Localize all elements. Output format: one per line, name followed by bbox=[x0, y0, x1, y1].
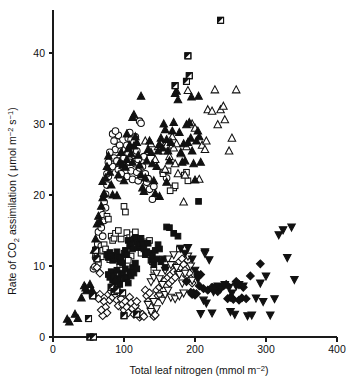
plot-svg: 0100200300400010203040Total leaf nitroge… bbox=[0, 0, 358, 382]
x-axis-title: Total leaf nitrogen (mmol m−2) bbox=[130, 364, 269, 376]
data-point bbox=[137, 92, 145, 99]
data-point bbox=[90, 334, 96, 340]
data-point bbox=[121, 204, 127, 210]
data-point bbox=[130, 246, 136, 252]
y-ticks-group: 010203040 bbox=[33, 47, 53, 343]
x-tick-label: 200 bbox=[186, 343, 204, 355]
y-axis-title: Rate of CO2 assimilation ( μmol m−2 s−1) bbox=[6, 107, 22, 295]
x-tick-label: 100 bbox=[115, 343, 133, 355]
data-point bbox=[180, 198, 188, 205]
data-point bbox=[170, 118, 178, 125]
data-point bbox=[284, 255, 292, 262]
data-point bbox=[120, 290, 126, 296]
data-point bbox=[221, 116, 229, 123]
data-point bbox=[151, 262, 157, 268]
scatter-plot-figure: 0100200300400010203040Total leaf nitroge… bbox=[0, 0, 358, 382]
data-point bbox=[174, 170, 182, 177]
data-point bbox=[106, 216, 112, 222]
data-point bbox=[157, 134, 165, 141]
data-point bbox=[169, 127, 177, 134]
data-point bbox=[125, 280, 131, 286]
data-point bbox=[271, 296, 279, 303]
data-point bbox=[211, 86, 219, 93]
data-point bbox=[225, 147, 233, 154]
data-point bbox=[218, 17, 224, 23]
data-point bbox=[197, 158, 205, 165]
data-point bbox=[121, 313, 127, 319]
data-point bbox=[145, 240, 151, 246]
x-tick-label: 0 bbox=[50, 343, 56, 355]
data-point bbox=[252, 295, 260, 302]
data-point bbox=[186, 73, 192, 79]
data-point bbox=[196, 199, 202, 205]
x-tick-label: 300 bbox=[257, 343, 275, 355]
data-point bbox=[112, 128, 119, 135]
y-tick-label: 30 bbox=[33, 118, 45, 130]
data-point bbox=[214, 121, 222, 128]
data-point bbox=[288, 224, 296, 231]
data-point bbox=[92, 235, 100, 242]
data-point bbox=[257, 280, 265, 287]
x-tick-label: 400 bbox=[328, 343, 346, 355]
data-point bbox=[130, 111, 138, 118]
data-point bbox=[167, 225, 173, 231]
data-point bbox=[116, 228, 122, 234]
data-point bbox=[197, 311, 205, 318]
data-point bbox=[183, 78, 189, 84]
data-point bbox=[90, 293, 96, 299]
data-point bbox=[123, 209, 129, 215]
data-point bbox=[134, 311, 140, 317]
data-point bbox=[158, 259, 164, 265]
data-point bbox=[114, 287, 120, 293]
data-point bbox=[275, 232, 283, 239]
data-point bbox=[185, 53, 191, 59]
data-point bbox=[78, 294, 86, 301]
y-tick-label: 20 bbox=[33, 189, 45, 201]
data-point bbox=[157, 246, 163, 252]
data-point bbox=[133, 260, 139, 266]
data-point bbox=[167, 188, 173, 194]
data-point bbox=[256, 260, 264, 268]
data-point bbox=[120, 260, 126, 266]
data-point bbox=[134, 266, 140, 272]
data-point bbox=[93, 247, 99, 253]
data-point bbox=[86, 316, 92, 322]
data-point bbox=[208, 310, 216, 317]
data-point bbox=[232, 86, 240, 93]
data-point bbox=[259, 299, 267, 306]
data-point bbox=[176, 128, 184, 135]
data-point bbox=[262, 273, 270, 280]
y-tick-label: 0 bbox=[39, 331, 45, 343]
y-tick-label: 40 bbox=[33, 47, 45, 59]
data-point bbox=[246, 272, 254, 280]
axes-group bbox=[53, 10, 337, 337]
y-tick-label: 10 bbox=[33, 260, 45, 272]
data-point bbox=[133, 229, 139, 235]
data-point bbox=[228, 134, 236, 141]
data-point bbox=[175, 233, 181, 239]
data-point bbox=[111, 138, 118, 145]
data-point bbox=[266, 312, 274, 319]
data-point bbox=[138, 120, 145, 127]
series-filled-triangle-down bbox=[177, 224, 298, 320]
data-point bbox=[124, 252, 130, 258]
data-point bbox=[184, 87, 192, 94]
data-point bbox=[160, 120, 168, 127]
data-point bbox=[195, 92, 203, 99]
data-point bbox=[118, 236, 124, 242]
data-point bbox=[140, 240, 146, 246]
data-point bbox=[162, 265, 168, 271]
data-point bbox=[203, 137, 211, 144]
data-point bbox=[291, 277, 299, 284]
data-point bbox=[185, 178, 191, 184]
data-point bbox=[125, 258, 131, 264]
data-point bbox=[172, 83, 178, 89]
series-filled-triangle-up bbox=[63, 87, 204, 325]
data-point bbox=[94, 256, 100, 262]
data-point bbox=[99, 233, 106, 240]
data-point bbox=[205, 257, 213, 264]
